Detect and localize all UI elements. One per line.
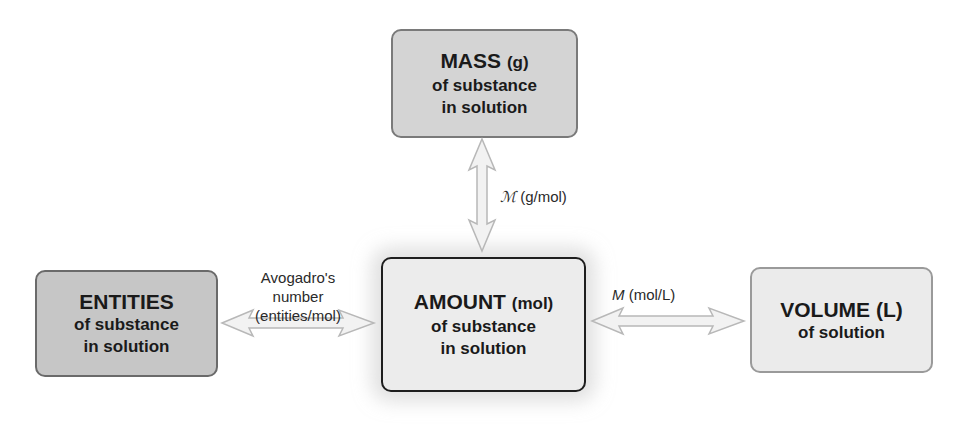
amount-unit: (mol)	[512, 294, 554, 313]
molarity-unit: (mol/L)	[629, 286, 676, 303]
double-arrow-right-icon	[591, 306, 745, 336]
amount-title-text: AMOUNT	[414, 290, 506, 313]
mass-title-text: MASS	[440, 49, 501, 72]
mass-line2: in solution	[442, 97, 528, 119]
avogadro-label: Avogadro's number (entities/mol)	[238, 268, 358, 325]
molar-mass-symbol: ℳ	[500, 188, 516, 206]
amount-line2: in solution	[441, 338, 527, 360]
mass-title: MASS (g)	[440, 48, 528, 75]
entities-line1: of substance	[74, 314, 179, 336]
mass-unit: (g)	[507, 53, 529, 72]
entities-title: ENTITIES	[79, 289, 174, 314]
molarity-symbol: M	[612, 286, 625, 303]
volume-box: VOLUME (L) of solution	[750, 267, 933, 373]
volume-line1: of solution	[798, 322, 885, 344]
amount-box: AMOUNT (mol) of substance in solution	[381, 257, 586, 392]
double-arrow-vertical-icon	[467, 138, 497, 252]
mass-line1: of substance	[432, 75, 537, 97]
avogadro-line1: Avogadro's	[238, 268, 358, 287]
entities-line2: in solution	[84, 336, 170, 358]
molar-mass-label: ℳ (g/mol)	[500, 187, 567, 207]
amount-title: AMOUNT (mol)	[414, 289, 554, 316]
molar-mass-unit: (g/mol)	[520, 188, 567, 205]
molarity-label: M (mol/L)	[612, 285, 675, 304]
mass-box: MASS (g) of substance in solution	[391, 29, 578, 138]
amount-line1: of substance	[431, 316, 536, 338]
avogadro-line3: (entities/mol)	[238, 306, 358, 325]
avogadro-line2: number	[238, 287, 358, 306]
entities-box: ENTITIES of substance in solution	[35, 270, 218, 377]
volume-title: VOLUME (L)	[780, 297, 902, 322]
